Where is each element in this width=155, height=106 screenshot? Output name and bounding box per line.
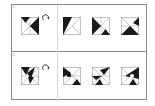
rotate-clockwise-arrow-icon [42, 14, 50, 22]
q1-option-a[interactable] [63, 17, 81, 35]
question-number-2: 2 [13, 53, 15, 57]
q1-option-b[interactable] [92, 17, 110, 35]
row-divider [11, 51, 147, 52]
q2-option-a[interactable] [63, 67, 81, 85]
q2-prompt-figure [21, 67, 39, 85]
q1-option-c[interactable] [121, 17, 139, 35]
q2-option-b[interactable] [92, 67, 110, 85]
rotate-clockwise-arrow-icon [42, 64, 50, 72]
q1-prompt-figure [21, 17, 39, 35]
question-number-1: 1 [13, 5, 15, 9]
q2-option-c[interactable] [121, 67, 139, 85]
column-divider [57, 5, 58, 100]
